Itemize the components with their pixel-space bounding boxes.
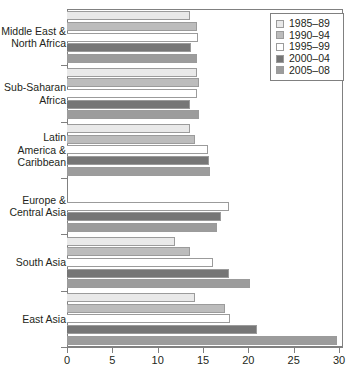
category-label: East Asia [0,313,66,326]
legend-item[interactable]: 1985–89 [276,18,339,30]
bar [67,135,195,144]
y-axis-tick [61,291,67,292]
bar [67,33,198,42]
y-axis-tick [61,65,67,66]
bar [67,314,230,323]
y-axis-tick [61,178,67,179]
bar [67,167,210,176]
x-axis-tick-label: 30 [333,354,345,367]
x-axis-tick-label: 15 [197,354,209,367]
bar [67,212,221,221]
bar [67,100,190,109]
y-axis-tick [61,234,67,235]
x-axis-tick [158,347,159,353]
x-axis-tick [294,347,295,353]
x-axis-tick-label: 10 [152,354,164,367]
x-axis-tick [112,347,113,353]
legend-label: 1985–89 [289,18,330,29]
legend-item[interactable]: 2000–04 [276,53,339,65]
legend-label: 1995–99 [289,41,330,52]
y-axis-tick [61,347,67,348]
bar [67,269,229,278]
legend: 1985–891990–941995–992000–042005–08 [270,13,344,81]
legend-item[interactable]: 1995–99 [276,41,339,53]
category-label: South Asia [0,256,66,269]
bar [67,223,217,232]
bar [67,202,229,211]
bar [67,11,190,20]
legend-label: 2000–04 [289,53,330,64]
bar [67,336,337,345]
bar [67,124,190,133]
bar [67,43,191,52]
legend-label: 2005–08 [289,65,330,76]
bar [67,78,199,87]
category-label: Middle East & North Africa [0,25,66,50]
x-axis-tick-label: 20 [242,354,254,367]
x-axis-tick [203,347,204,353]
legend-swatch-icon [276,55,284,63]
legend-swatch-icon [276,43,284,51]
legend-item[interactable]: 2005–08 [276,64,339,76]
x-axis-tick [248,347,249,353]
bar [67,237,175,246]
legend-swatch-icon [276,66,284,74]
legend-label: 1990–94 [289,30,330,41]
bar [67,89,197,98]
bar [67,258,213,267]
category-label: Europe & Central Asia [0,194,66,219]
bar [67,247,190,256]
bar-chart: Middle East & North AfricaSub-Saharan Af… [0,0,352,369]
legend-item[interactable]: 1990–94 [276,30,339,42]
bar [67,304,225,313]
bar [67,145,208,154]
x-axis-tick-label: 25 [288,354,300,367]
x-axis-tick-label: 0 [64,354,70,367]
legend-swatch-icon [276,20,284,28]
y-axis-tick [61,122,67,123]
x-axis-tick-label: 5 [109,354,115,367]
bar [67,22,197,31]
bar [67,156,209,165]
category-label: Latin America & Caribbean [0,131,66,169]
bar [67,279,250,288]
category-label: Sub-Saharan Africa [0,81,66,106]
x-axis-line [67,347,343,348]
bar [67,68,197,77]
x-axis-tick [339,347,340,353]
bar [67,325,257,334]
legend-swatch-icon [276,31,284,39]
x-axis-tick [67,347,68,353]
bar [67,110,199,119]
bar [67,54,197,63]
bar [67,293,195,302]
